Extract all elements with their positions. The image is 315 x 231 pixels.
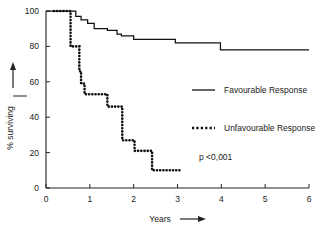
y-tick-label: 40 (30, 112, 40, 122)
y-axis-title: % surviving (5, 106, 15, 150)
x-axis-title: Years (149, 214, 170, 224)
x-tick-label: 3 (175, 194, 180, 204)
x-tick-label: 5 (263, 194, 268, 204)
axis-lines (46, 11, 309, 188)
y-tick-label: 60 (30, 77, 40, 87)
x-tick-label: 0 (44, 194, 49, 204)
x-axis-arrow-icon (180, 216, 206, 222)
legend: Favourable Response Unfavourable Respons… (192, 85, 315, 162)
y-tick-label: 80 (30, 41, 40, 51)
x-axis-ticks (46, 184, 309, 188)
y-axis-title-group: % surviving (5, 62, 27, 150)
x-tick-label: 4 (219, 194, 224, 204)
legend-label-unfavourable: Unfavourable Response (224, 123, 315, 133)
y-tick-label: 20 (30, 148, 40, 158)
x-tick-label: 1 (87, 194, 92, 204)
p-value-annotation: p <0,001 (199, 152, 233, 162)
survival-chart: 020406080100 0123456 % surviving Years F… (0, 0, 315, 231)
y-axis-tick-labels: 020406080100 (25, 6, 39, 193)
y-tick-label: 100 (25, 6, 39, 16)
legend-label-favourable: Favourable Response (224, 85, 307, 95)
x-axis-tick-labels: 0123456 (44, 194, 312, 204)
y-axis-ticks (46, 11, 50, 188)
y-tick-label: 0 (34, 183, 39, 193)
series-line-unfavourable-response (54, 11, 182, 170)
y-axis-arrow-icon (10, 62, 16, 88)
series-line-favourable-response (46, 11, 309, 50)
x-axis-title-group: Years (149, 214, 206, 224)
plot-area: 020406080100 0123456 % surviving Years F… (0, 0, 315, 231)
x-tick-label: 2 (131, 194, 136, 204)
x-tick-label: 6 (307, 194, 312, 204)
